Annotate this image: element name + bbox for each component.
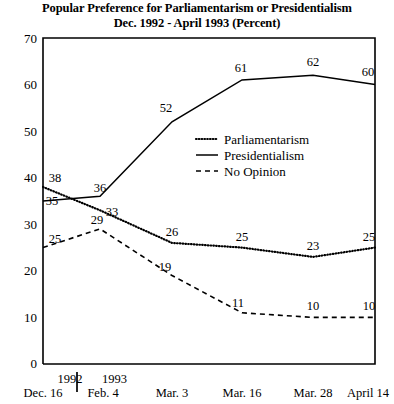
data-label: 19 [159, 260, 172, 274]
series-line-no-opinion [43, 229, 375, 318]
data-label: 26 [166, 225, 179, 239]
data-label: 36 [94, 181, 107, 195]
year-label: 1992 [58, 372, 83, 386]
y-tick-label: 60 [24, 77, 37, 92]
x-tick-label: Dec. 16 [24, 386, 63, 400]
data-label: 61 [235, 61, 248, 75]
plot-frame [43, 38, 375, 364]
x-tick-label: Mar. 28 [294, 386, 333, 400]
data-labels-no-opinion: 25 29 19 11 10 10 [49, 213, 376, 313]
y-tick-label: 50 [24, 124, 37, 139]
data-label: 60 [362, 65, 375, 79]
x-tick-label: Feb. 4 [87, 386, 119, 400]
data-label: 23 [307, 239, 320, 253]
data-label: 10 [363, 299, 376, 313]
y-tick-label: 20 [24, 263, 37, 278]
legend-label: No Opinion [224, 164, 286, 179]
x-tick-label: Mar. 3 [156, 386, 189, 400]
y-tick-label: 30 [24, 217, 37, 232]
x-axis-ticks: Dec. 16 Feb. 4 Mar. 3 Mar. 16 Mar. 28 Ap… [24, 386, 390, 400]
data-label: 29 [91, 213, 104, 227]
chart-container: Popular Preference for Parliamentarism o… [0, 0, 394, 404]
axis-border [43, 38, 375, 364]
data-label: 25 [236, 230, 249, 244]
data-label: 11 [232, 296, 244, 310]
data-labels-presidentialism: 35 36 52 61 62 60 [46, 55, 375, 208]
data-label: 33 [106, 205, 119, 219]
x-tick-label: April 14 [347, 386, 390, 400]
legend-label: Presidentialism [224, 148, 304, 163]
data-label: 38 [49, 171, 62, 185]
y-tick-label: 70 [24, 31, 37, 46]
y-tick-label: 10 [24, 310, 37, 325]
data-label: 25 [363, 230, 376, 244]
y-tick-label: 0 [31, 356, 38, 371]
data-label: 62 [307, 55, 320, 69]
data-label: 52 [160, 101, 173, 115]
chart-legend: Parliamentarism Presidentialism No Opini… [196, 132, 309, 179]
data-label: 25 [49, 232, 62, 246]
y-tick-label: 40 [24, 170, 37, 185]
legend-label: Parliamentarism [224, 132, 309, 147]
data-label: 10 [307, 299, 320, 313]
x-tick-label: Mar. 16 [223, 386, 262, 400]
data-label: 35 [46, 194, 59, 208]
year-label: 1993 [102, 372, 127, 386]
y-axis-ticks: 70 60 50 40 30 20 10 0 [24, 31, 37, 371]
chart-svg: 70 60 50 40 30 20 10 0 38 33 26 25 23 25… [0, 0, 394, 404]
